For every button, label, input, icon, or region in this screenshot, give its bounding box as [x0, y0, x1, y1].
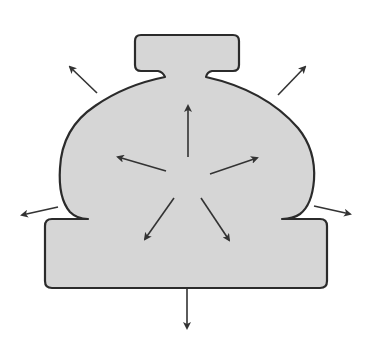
- arrow-right-icon: [314, 206, 350, 214]
- pressure-diagram: [0, 0, 371, 353]
- arrow-top-left-icon: [70, 67, 97, 93]
- arrow-top-right-icon: [278, 67, 305, 95]
- vessel-shape: [45, 35, 327, 288]
- arrow-left-icon: [22, 207, 58, 215]
- diagram-canvas: Outward pressure on container shape: [0, 0, 371, 353]
